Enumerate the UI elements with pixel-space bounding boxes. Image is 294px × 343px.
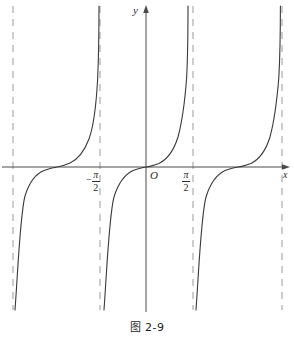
fraction-denominator: 2 xyxy=(92,182,99,193)
fraction-denominator: 2 xyxy=(183,182,190,193)
asymptote-group xyxy=(13,6,282,310)
plot-area: y x O − π 2 π 2 xyxy=(0,0,294,312)
fraction-numerator: π xyxy=(182,170,189,181)
fraction-pi-over-two: π 2 xyxy=(92,170,100,193)
y-axis-label: y xyxy=(133,5,138,16)
tangent-plot-svg xyxy=(0,0,294,312)
y-axis-arrowhead xyxy=(143,5,149,13)
tangent-curves xyxy=(15,6,280,310)
fraction-pi-over-two: π 2 xyxy=(182,170,190,193)
figure-caption: 图 2-9 xyxy=(0,318,294,334)
origin-label: O xyxy=(150,170,158,181)
tick-label-positive-half-pi: π 2 xyxy=(182,170,190,193)
x-axis-label: x xyxy=(283,170,287,180)
figure-container: y x O − π 2 π 2 图 2-9 xyxy=(0,0,294,343)
tangent-branch-left xyxy=(15,6,99,310)
tick-label-negative-half-pi: − π 2 xyxy=(86,170,100,193)
y-axis xyxy=(143,5,149,312)
tangent-branch-right xyxy=(196,6,280,310)
fraction-numerator: π xyxy=(92,170,99,181)
